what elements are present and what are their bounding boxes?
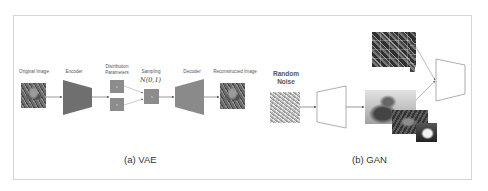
decoder-block [175, 79, 204, 115]
discriminator-block [436, 59, 465, 101]
arrow-real-to-discriminator [416, 81, 435, 100]
generator-block [317, 86, 346, 128]
arrow-variance-to-sample [124, 99, 143, 105]
encoder-block [63, 80, 92, 115]
diagram-shapes [0, 0, 488, 191]
arrow-fake-to-discriminator [416, 47, 435, 80]
arrow-mean-to-sample [124, 86, 143, 93]
